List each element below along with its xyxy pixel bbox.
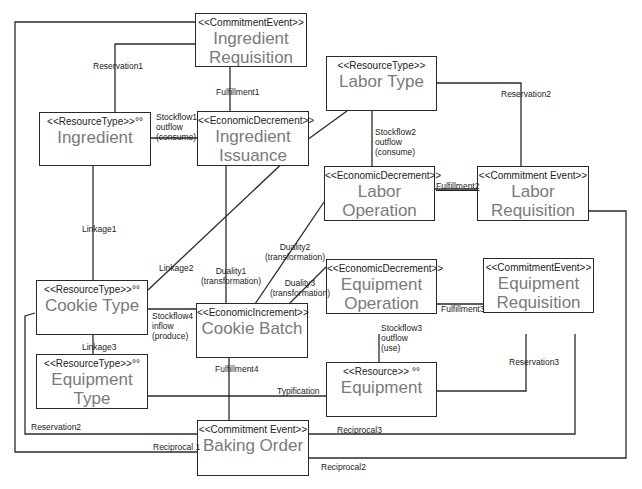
stereotype: <<CommitmentEvent>> [196, 17, 306, 29]
box-equipment[interactable]: <<Resource>> °° Equipment [326, 362, 437, 417]
stereotype: <<EconomicIncrement>> [197, 307, 307, 319]
label-typification: Typification [277, 386, 320, 396]
label-stockflow4: Stockflow4 inflow (produce) [152, 311, 193, 341]
entity-name: Cookie Type [37, 296, 147, 315]
label-stockflow3: Stockflow3 outflow (use) [381, 323, 422, 353]
box-equipment-operation[interactable]: <<EconomicDecrement>> Equipment Operatio… [326, 259, 437, 314]
label-reservation1: Reservation1 [93, 61, 143, 71]
label-linkage2: Linkage2 [159, 263, 194, 273]
label-reservation2-bottom: Reservation2 [31, 422, 81, 432]
box-baking-order[interactable]: <<Commitment Event>> Baking Order [197, 420, 309, 476]
label-linkage1: Linkage1 [82, 224, 117, 234]
entity-name: Equipment [327, 378, 436, 397]
stereotype: <<EconomicDecrement>> [198, 115, 308, 127]
box-equipment-requisition[interactable]: <<CommitmentEvent>> Equipment Requisitio… [483, 258, 594, 313]
box-labor-requisition[interactable]: <<Commitment Event>> Labor Requisition [477, 166, 589, 221]
entity-name: Labor Type [327, 72, 436, 91]
stereotype: <<Commitment Event>> [198, 424, 308, 436]
stereotype: <<ResourceType>> [327, 60, 436, 72]
stereotype: <<ResourceType>>°° [37, 358, 147, 370]
box-labor-type[interactable]: <<ResourceType>> Labor Type [326, 56, 437, 111]
entity-name: Ingredient Requisition [196, 29, 306, 67]
label-fulfillment4: Fulfillment4 [215, 364, 258, 374]
label-reservation3: Reservation3 [509, 357, 559, 367]
entity-name: Labor Operation [325, 182, 434, 220]
label-duality1: Duality1 (transformation) [201, 266, 261, 286]
stereotype: <<CommitmentEvent>> [484, 262, 593, 274]
label-fulfillment1: Fulfillment1 [216, 87, 259, 97]
label-reservation2-top: Reservation2 [501, 89, 551, 99]
entity-name: Equipment Type [37, 370, 147, 408]
label-reciprocal3: Reciprocal3 [337, 425, 382, 435]
label-stockflow1: Stockflow1 outflow (consume) [156, 112, 197, 142]
box-cookie-type[interactable]: <<ResourceType>>°° Cookie Type [36, 280, 148, 335]
entity-name: Ingredient [40, 128, 150, 147]
box-ingredient-issuance[interactable]: <<EconomicDecrement>> Ingredient Issuanc… [197, 111, 309, 166]
entity-name: Equipment Operation [327, 275, 436, 313]
stereotype: <<EconomicDecrement>> [325, 170, 434, 182]
label-linkage3: Linkage3 [82, 342, 117, 352]
label-reciprocal1: Reciprocal 1 [153, 442, 200, 452]
stereotype: <<ResourceType>>°° [37, 284, 147, 296]
box-ingredient[interactable]: <<ResourceType>>°° Ingredient [39, 112, 151, 166]
entity-name: Cookie Batch [197, 319, 307, 338]
box-ingredient-requisition[interactable]: <<CommitmentEvent>> Ingredient Requisiti… [195, 13, 307, 67]
label-fulfillment3: Fulfillment3 [441, 304, 484, 314]
stereotype: <<Commitment Event>> [478, 170, 588, 182]
box-labor-operation[interactable]: <<EconomicDecrement>> Labor Operation [324, 166, 435, 221]
label-duality3: Duality3 (transformation) [270, 278, 330, 298]
label-fulfillment2: Fulfillment2 [436, 181, 479, 191]
entity-name: Equipment Requisition [484, 274, 593, 312]
entity-name: Ingredient Issuance [198, 127, 308, 165]
entity-name: Baking Order [198, 436, 308, 455]
label-duality2: Duality2 (transformation) [265, 242, 325, 262]
entity-name: Labor Requisition [478, 182, 588, 220]
box-cookie-batch[interactable]: <<EconomicIncrement>> Cookie Batch [196, 303, 308, 358]
rea-cookie-diagram: <<CommitmentEvent>> Ingredient Requisiti… [0, 0, 642, 489]
stereotype: <<Resource>> °° [327, 366, 436, 378]
stereotype: <<ResourceType>>°° [40, 116, 150, 128]
box-equipment-type[interactable]: <<ResourceType>>°° Equipment Type [36, 354, 148, 409]
label-stockflow2: Stockflow2 outflow (consume) [375, 127, 416, 157]
label-reciprocal2: Reciprocal2 [321, 462, 366, 472]
stereotype: <<EconomicDecrement>> [327, 263, 436, 275]
